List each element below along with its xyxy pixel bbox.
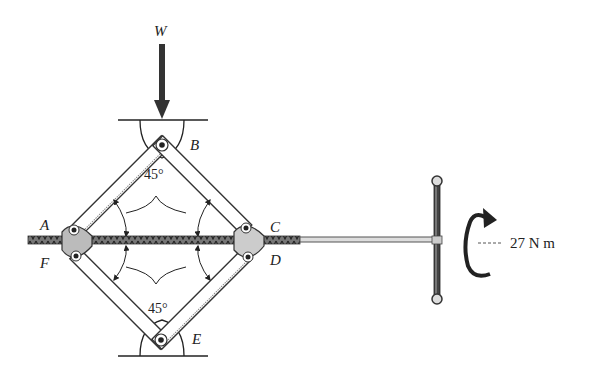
load-arrow-head-icon [154, 100, 170, 119]
load-w: W [154, 23, 170, 119]
handle-knob-bottom [432, 294, 442, 304]
label-b: B [190, 137, 199, 153]
label-f: F [39, 255, 50, 271]
handle [432, 176, 442, 304]
moment-label: 27 N m [510, 235, 555, 251]
pin-c [244, 226, 249, 231]
pin-b [156, 139, 168, 151]
handle-knob-top [432, 176, 442, 186]
angle-bottom-label: 45° [148, 301, 168, 316]
label-d: D [269, 252, 281, 268]
pin-f [74, 254, 79, 259]
angle-top-label: 45° [144, 167, 164, 182]
pin-a [72, 228, 77, 233]
moment-arrow-icon [465, 208, 497, 276]
left-nut-block [62, 225, 92, 261]
load-label: W [154, 23, 168, 39]
label-e: E [191, 331, 201, 347]
scissor-jack-diagram: W [0, 0, 598, 380]
pin-e [155, 334, 167, 346]
label-a: A [39, 217, 50, 233]
pin-d [246, 255, 251, 260]
label-c: C [270, 219, 281, 235]
